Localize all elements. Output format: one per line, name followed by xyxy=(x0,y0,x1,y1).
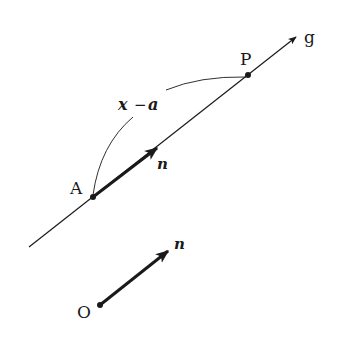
label-n-on-line: n xyxy=(157,155,168,173)
label-g: g xyxy=(304,27,315,47)
label-O: O xyxy=(77,302,91,322)
point-P xyxy=(245,72,251,78)
line-vector-diagram: g P A O n n x − a xyxy=(0,0,341,347)
point-O xyxy=(97,302,103,308)
label-minus: − xyxy=(134,96,147,114)
vector-n-from-origin xyxy=(100,251,168,305)
arc-x-minus-a-upper xyxy=(166,77,246,90)
line-g xyxy=(29,37,296,247)
label-P: P xyxy=(240,49,251,69)
point-A xyxy=(90,194,96,200)
vector-n-on-line xyxy=(93,148,157,197)
label-x: x xyxy=(117,95,128,114)
label-a: a xyxy=(148,95,158,114)
label-n-free: n xyxy=(174,235,185,253)
label-A: A xyxy=(69,178,83,198)
